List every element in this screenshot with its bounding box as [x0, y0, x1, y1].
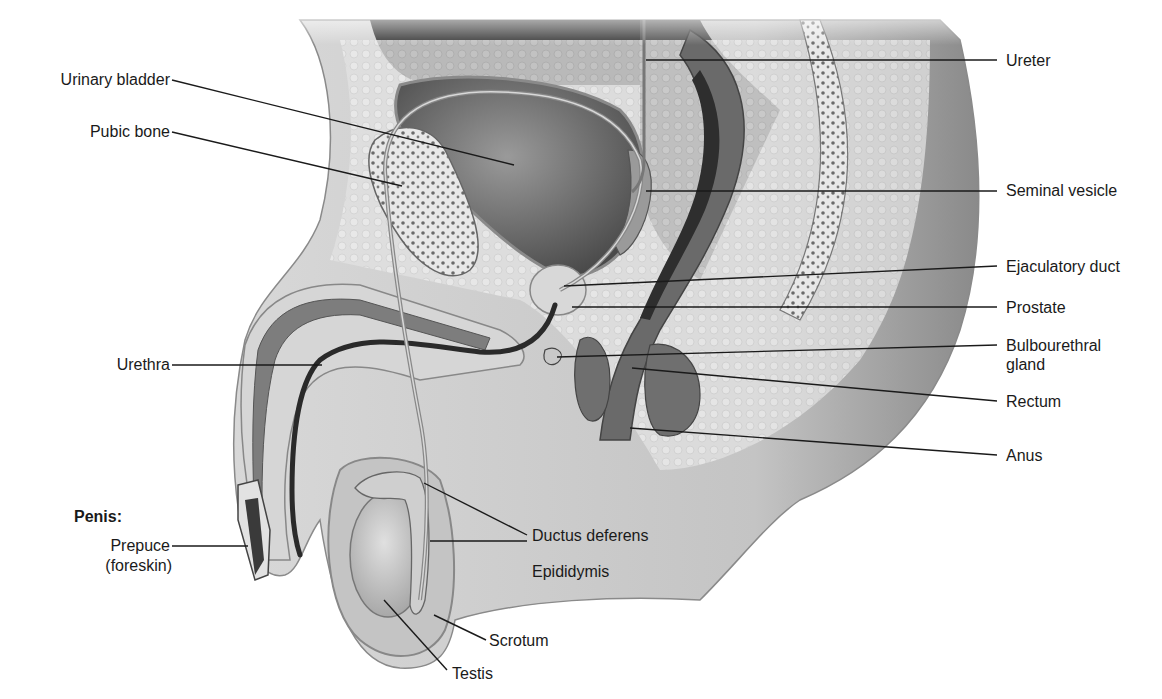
- label-rectum: Rectum: [1006, 392, 1061, 411]
- label-bulbourethral-gland-2: gland: [1006, 355, 1045, 374]
- label-urinary-bladder: Urinary bladder: [20, 70, 170, 89]
- label-prepuce-foreskin: (foreskin): [20, 556, 172, 575]
- label-pubic-bone: Pubic bone: [20, 122, 170, 141]
- label-prepuce: Prepuce: [20, 536, 170, 555]
- label-ejaculatory-duct: Ejaculatory duct: [1006, 257, 1120, 276]
- label-seminal-vesicle: Seminal vesicle: [1006, 181, 1117, 200]
- label-scrotum: Scrotum: [489, 631, 549, 650]
- label-anus: Anus: [1006, 446, 1042, 465]
- label-urethra: Urethra: [20, 355, 170, 374]
- label-testis: Testis: [452, 664, 493, 683]
- label-epididymis: Epididymis: [532, 562, 609, 581]
- label-ureter: Ureter: [1006, 51, 1050, 70]
- anatomy-diagram: Urinary bladder Pubic bone Urethra Penis…: [0, 0, 1162, 699]
- label-ductus-deferens: Ductus deferens: [532, 526, 649, 545]
- label-penis-heading: Penis:: [74, 507, 122, 526]
- label-bulbourethral-gland: Bulbourethral: [1006, 336, 1101, 355]
- anatomy-illustration: [0, 0, 1162, 699]
- label-prostate: Prostate: [1006, 298, 1066, 317]
